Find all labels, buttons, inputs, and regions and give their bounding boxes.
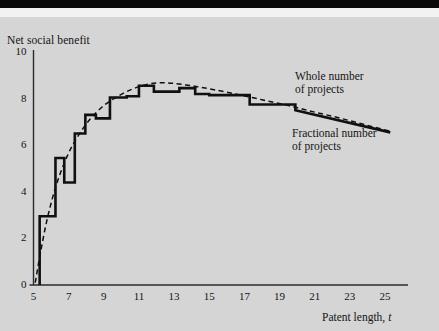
- series-fractional-number-of-projects: [35, 83, 390, 283]
- series-whole-number-of-projects: [40, 86, 391, 285]
- top-black-bar: [0, 0, 439, 8]
- data-series: [35, 83, 390, 285]
- chart-figure: Net social benefit Patent length, t 0246…: [0, 0, 439, 331]
- top-white-band: [0, 8, 439, 17]
- chart-svg: [0, 17, 439, 331]
- axes-lines: [30, 50, 409, 285]
- plot-area: Net social benefit Patent length, t 0246…: [0, 17, 439, 331]
